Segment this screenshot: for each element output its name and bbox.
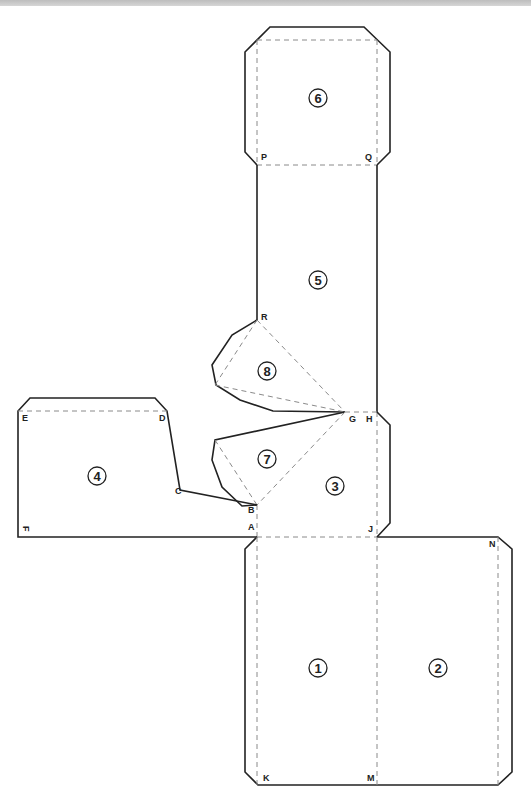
panel-label-1: 1 (309, 659, 327, 677)
svg-text:7: 7 (263, 452, 270, 467)
point-label-a: A (248, 522, 255, 532)
panel-label-8: 8 (258, 362, 276, 380)
net-diagram: 1 2 3 4 5 6 7 8 A B C D E F G H J K M N … (0, 0, 531, 798)
point-label-q: Q (365, 152, 372, 162)
point-label-m: M (367, 773, 375, 783)
svg-text:4: 4 (93, 469, 101, 484)
svg-text:8: 8 (263, 364, 270, 379)
panel-label-7: 7 (258, 450, 276, 468)
svg-text:6: 6 (314, 91, 321, 106)
svg-text:3: 3 (331, 479, 338, 494)
point-label-h: H (366, 414, 373, 424)
flap-7-outline (212, 412, 345, 506)
panel-label-6: 6 (309, 89, 327, 107)
panel-label-4: 4 (88, 467, 106, 485)
panel-label-3: 3 (326, 477, 344, 495)
panel-label-5: 5 (309, 271, 327, 289)
panels-1-2-fold-lines (257, 537, 498, 785)
point-label-e: E (22, 413, 28, 423)
point-label-k: K (263, 773, 270, 783)
panel-3-right-tab (377, 412, 390, 537)
point-label-n: N (489, 539, 496, 549)
panels-1-2-outline (245, 537, 512, 785)
point-label-b: B (248, 505, 255, 515)
svg-text:2: 2 (434, 661, 441, 676)
point-label-p: P (261, 152, 267, 162)
svg-text:1: 1 (314, 661, 321, 676)
point-label-d: D (159, 413, 166, 423)
panel-label-2: 2 (429, 659, 447, 677)
point-label-c: C (175, 486, 182, 496)
point-label-f: F (21, 526, 31, 532)
svg-text:5: 5 (314, 273, 321, 288)
panel-3-fold-lines (257, 412, 377, 537)
point-label-g: G (349, 414, 356, 424)
point-label-j: J (368, 524, 373, 534)
point-label-r: R (261, 312, 268, 322)
panel-4-outline (18, 398, 257, 537)
